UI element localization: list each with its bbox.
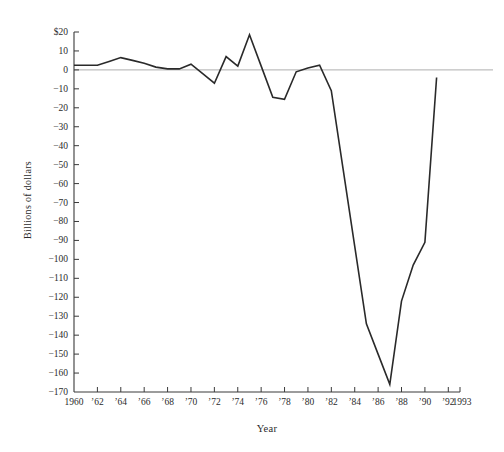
y-tick-label: −40 xyxy=(53,141,68,151)
y-tick-label: −70 xyxy=(53,198,68,208)
x-tick-label: ’64 xyxy=(114,397,127,407)
x-tick-label: ’82 xyxy=(325,397,338,407)
balance-data-line xyxy=(74,35,437,385)
y-tick-label: −120 xyxy=(48,292,68,302)
x-tick-label: ’74 xyxy=(231,397,244,407)
y-tick-label: −140 xyxy=(48,330,68,340)
x-tick-label: 1960 xyxy=(65,397,84,407)
x-tick-label: ’90 xyxy=(419,397,432,407)
y-tick-label: −130 xyxy=(48,311,68,321)
x-tick-label: ’84 xyxy=(348,397,361,407)
y-tick-label: −90 xyxy=(53,235,68,245)
chart-figure: $20100−10−20−30−40−50−60−70−80−90−100−11… xyxy=(0,0,504,452)
y-tick-label: −50 xyxy=(53,160,68,170)
y-tick-label: 0 xyxy=(63,65,68,75)
y-tick-label: −110 xyxy=(49,273,69,283)
x-tick-label: ’72 xyxy=(208,397,221,407)
x-tick-label: ’80 xyxy=(302,397,315,407)
y-tick-label: −170 xyxy=(48,387,68,397)
y-tick-label: −80 xyxy=(53,216,68,226)
y-axis-title: Billions of dollars xyxy=(22,161,33,239)
y-tick-label: 10 xyxy=(59,46,69,56)
y-tick-label: −150 xyxy=(48,349,68,359)
x-tick-label: ’66 xyxy=(138,397,151,407)
x-tick-label: ’78 xyxy=(278,397,291,407)
y-tick-label: −30 xyxy=(53,122,68,132)
x-tick-label: ’76 xyxy=(255,397,268,407)
x-tick-label: ’86 xyxy=(372,397,385,407)
balance-line-chart: $20100−10−20−30−40−50−60−70−80−90−100−11… xyxy=(0,0,504,452)
x-axis-title: Year xyxy=(257,423,278,434)
x-tick-label: 1993 xyxy=(453,397,472,407)
y-tick-label: −100 xyxy=(48,254,68,264)
y-tick-label: −10 xyxy=(53,84,68,94)
y-tick-label: −60 xyxy=(53,179,68,189)
x-tick-label: ’62 xyxy=(91,397,104,407)
y-tick-label: $20 xyxy=(54,27,69,37)
x-tick-label: ’88 xyxy=(395,397,408,407)
y-tick-label: −20 xyxy=(53,103,68,113)
y-tick-label: −160 xyxy=(48,368,68,378)
x-tick-label: ’68 xyxy=(161,397,174,407)
x-tick-label: ’70 xyxy=(185,397,198,407)
